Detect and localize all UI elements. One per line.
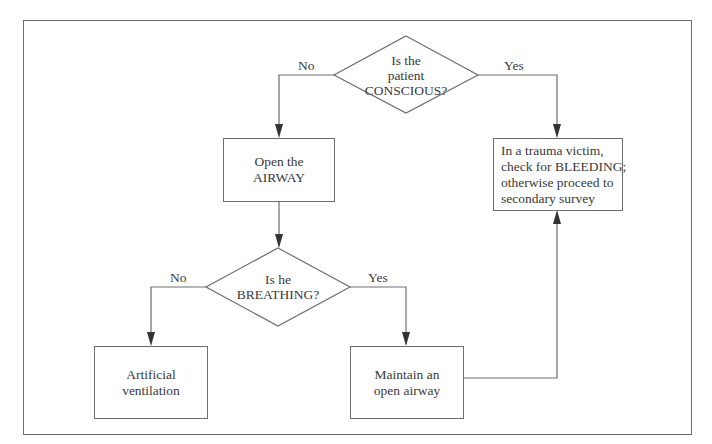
process-box-maintain-airway: Maintain an open airway <box>350 346 464 419</box>
process-box-check-bleeding: In a trauma victim, check for BLEEDING; … <box>493 138 623 211</box>
process-box-open-airway: Open the AIRWAY <box>223 138 335 202</box>
decision-conscious-line-3: CONSCIOUS? <box>365 83 448 98</box>
maintain-airway-line-2: open airway <box>374 383 440 399</box>
conscious-no-label: No <box>298 58 315 74</box>
check-bleeding-line-1: In a trauma victim, <box>501 143 626 159</box>
decision-conscious-text: Is the patient CONSCIOUS? <box>346 50 466 100</box>
artificial-ventilation-line-2: ventilation <box>122 383 180 399</box>
decision-breathing-line-2: BREATHING? <box>237 287 320 302</box>
artificial-ventilation-line-1: Artificial <box>122 367 180 383</box>
conscious-yes-label: Yes <box>504 58 524 74</box>
open-airway-line-1: Open the <box>253 154 305 170</box>
process-box-artificial-ventilation: Artificial ventilation <box>94 346 208 419</box>
check-bleeding-line-3: otherwise proceed to <box>501 175 626 191</box>
breathing-no-label: No <box>170 270 187 286</box>
check-bleeding-line-2: check for BLEEDING; <box>501 159 626 175</box>
check-bleeding-line-4: secondary survey <box>501 191 626 207</box>
decision-breathing-text: Is he BREATHING? <box>218 270 338 304</box>
decision-conscious-line-1: Is the <box>391 53 421 68</box>
decision-conscious-line-2: patient <box>388 68 425 83</box>
decision-breathing-line-1: Is he <box>265 272 291 287</box>
breathing-yes-label: Yes <box>368 270 388 286</box>
maintain-airway-line-1: Maintain an <box>374 367 440 383</box>
open-airway-line-2: AIRWAY <box>253 170 305 186</box>
